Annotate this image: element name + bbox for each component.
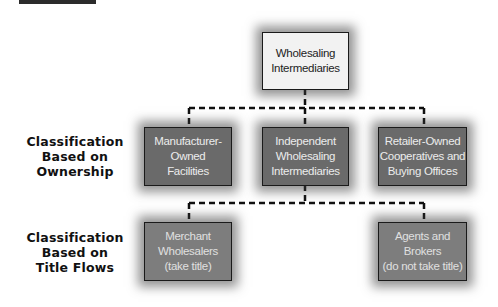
label-ownership-classification: Classification Based on Ownership: [14, 134, 136, 179]
node-independent-wholesaling-intermediaries: Independent Wholesaling Intermediaries: [262, 127, 349, 186]
label-title-flows-classification: Classification Based on Title Flows: [14, 230, 136, 275]
node-retailer-owned-cooperatives: Retailer-Owned Cooperatives and Buying O…: [378, 127, 467, 186]
node-manufacturer-owned-facilities: Manufacturer- Owned Facilities: [144, 127, 232, 186]
node-merchant-wholesalers: Merchant Wholesalers (take title): [144, 222, 232, 281]
node-wholesaling-intermediaries: Wholesaling Intermediaries: [262, 32, 349, 90]
node-agents-and-brokers: Agents and Brokers (do not take title): [378, 222, 467, 281]
